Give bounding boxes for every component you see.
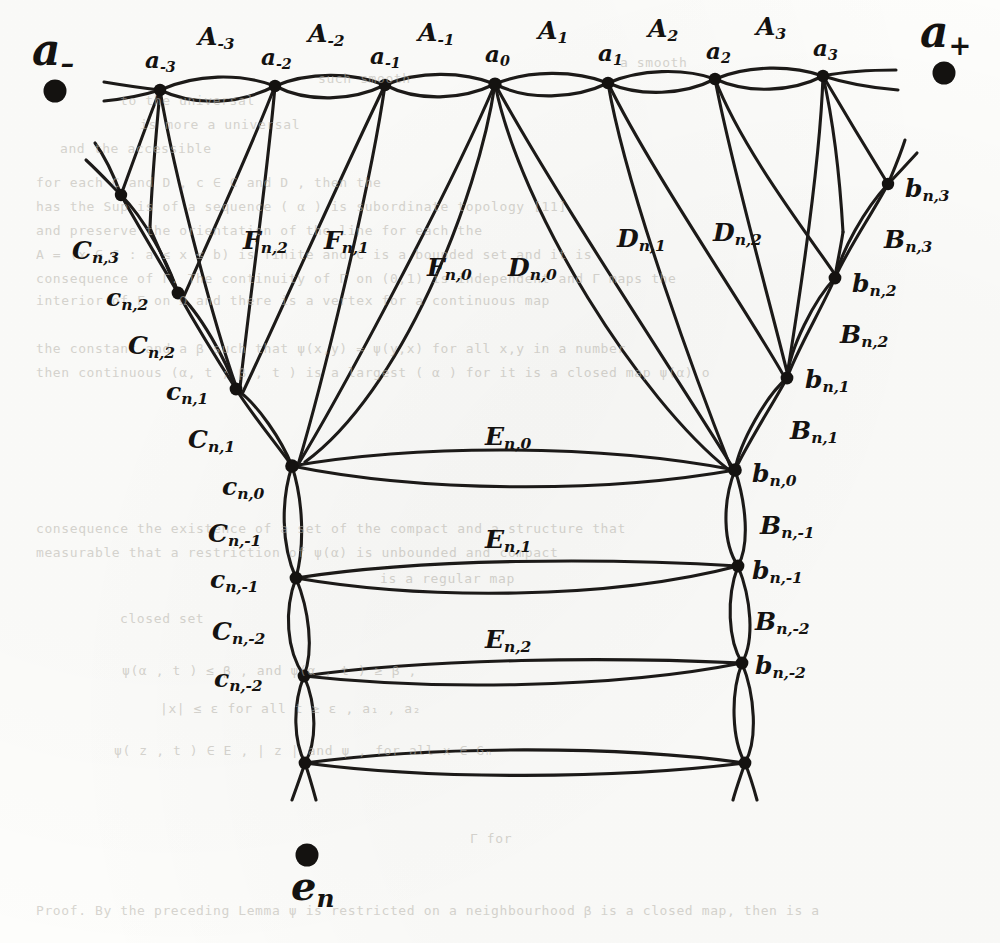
label-edge-A-minus2: A-2: [308, 21, 344, 49]
bleed-text: measurable that a restriction of ψ(α) is…: [36, 545, 558, 560]
label-vertex-b-n-minus1: bn,-1: [752, 558, 803, 586]
bleed-text: then continuous (α, t ; β , t ) is a lar…: [36, 365, 710, 380]
label-edge-C-n-minus1: Cn,-1: [208, 521, 261, 549]
label-edge-F-n1: Fn,1: [324, 228, 369, 256]
bleed-text: has the Sup is of a sequence ( α ) is su…: [36, 199, 567, 214]
label-edge-B-n-minus2: Bn,-2: [755, 609, 809, 637]
label-vertex-c-n0: cn,0: [222, 474, 264, 502]
label-edge-D-n0: Dn,0: [508, 255, 557, 283]
bleed-text: is more a universal: [140, 117, 300, 132]
label-vertex-a-1: a1: [598, 41, 623, 67]
bleed-text: such smooth: [318, 71, 411, 86]
label-edge-E-n2: En,2: [485, 627, 531, 655]
label-a-minus: a–: [32, 28, 74, 77]
label-vertex-c-n-minus1: cn,-1: [210, 567, 259, 595]
bleed-text: |x| ≤ ε for all t ≥ ε , a₁ , a₂: [160, 701, 421, 716]
label-vertex-a-minus1: a-1: [370, 44, 400, 70]
bleed-text: Γ for: [470, 831, 512, 846]
label-edge-A-1: A1: [538, 18, 568, 46]
label-edge-C-n-minus2: Cn,-2: [212, 619, 265, 647]
bleed-text: closed set: [120, 611, 204, 626]
label-vertex-c-n1: cn,1: [166, 379, 208, 407]
label-edge-C-n2: Cn,2: [128, 333, 175, 361]
label-edge-F-n2: Fn,2: [243, 228, 288, 256]
label-vertex-a-2: a2: [706, 39, 731, 65]
label-edge-A-minus1: A-1: [418, 20, 454, 48]
label-edge-B-n1: Bn,1: [790, 418, 838, 446]
endpoint-dot-a-plus: [933, 62, 956, 85]
label-edge-F-n0: Fn,0: [427, 255, 472, 283]
label-edge-B-n3: Bn,3: [884, 227, 932, 255]
label-vertex-a-0: a0: [485, 42, 510, 68]
bleed-text: to the universal: [120, 93, 255, 108]
label-edge-B-n2: Bn,2: [840, 322, 888, 350]
label-edge-A-2: A2: [648, 16, 678, 44]
label-vertex-a-3: a3: [813, 36, 838, 62]
label-edge-D-n2: Dn,2: [713, 220, 762, 248]
bleed-text: and the accessible: [60, 141, 212, 156]
middle-edges: [292, 450, 745, 775]
label-vertex-b-n2: bn,2: [852, 271, 896, 299]
figure-root: a smooth to the universal such smooth is…: [0, 0, 1000, 943]
label-edge-D-n1: Dn,1: [617, 226, 666, 254]
bleed-text: consequence the existence of a set of th…: [36, 521, 626, 536]
label-vertex-c-n-minus2: cn,-2: [214, 666, 263, 694]
bleed-text: a smooth: [620, 55, 687, 70]
label-edge-C-n1: Cn,1: [188, 427, 235, 455]
bleed-text: for each C and D , c ∈ C and D , then th…: [36, 175, 382, 190]
label-edge-E-n0: En,0: [485, 424, 531, 452]
label-a-plus: a+: [920, 10, 971, 59]
label-vertex-b-n3: bn,3: [905, 176, 949, 204]
bleed-text: Proof. By the preceding Lemma ψ is restr…: [36, 903, 820, 918]
label-edge-E-n1: En,1: [485, 527, 531, 555]
endpoint-dot-a-minus: [44, 80, 67, 103]
label-vertex-b-n0: bn,0: [752, 461, 796, 489]
bleed-text: is a regular map: [380, 571, 515, 586]
label-vertex-b-n1: bn,1: [805, 367, 849, 395]
bleed-text: ψ(α , t ) ≤ β , and ψ(α , t ) ≥ β ,: [122, 663, 417, 678]
label-edge-C-n3: Cn,3: [72, 238, 119, 266]
label-e-n: en: [291, 866, 334, 912]
label-edge-A-3: A3: [756, 14, 786, 42]
bleed-text: the constant and a β such that ψ(x,y) = …: [36, 341, 626, 356]
bleed-text: consequence of Γ. The continuity of Γ on…: [36, 271, 676, 286]
label-vertex-c-n2: cn,2: [106, 285, 148, 313]
label-edge-A-minus3: A-3: [198, 24, 234, 52]
bleed-text: ψ( z , t ) ∈ E , ∣ z ∣ and ψ , for all x…: [114, 743, 493, 758]
label-vertex-b-n-minus2: bn,-2: [755, 653, 806, 681]
label-vertex-a-minus3: a-3: [145, 48, 175, 74]
label-vertex-a-minus2: a-2: [261, 45, 291, 71]
label-edge-B-n-minus1: Bn,-1: [760, 513, 814, 541]
